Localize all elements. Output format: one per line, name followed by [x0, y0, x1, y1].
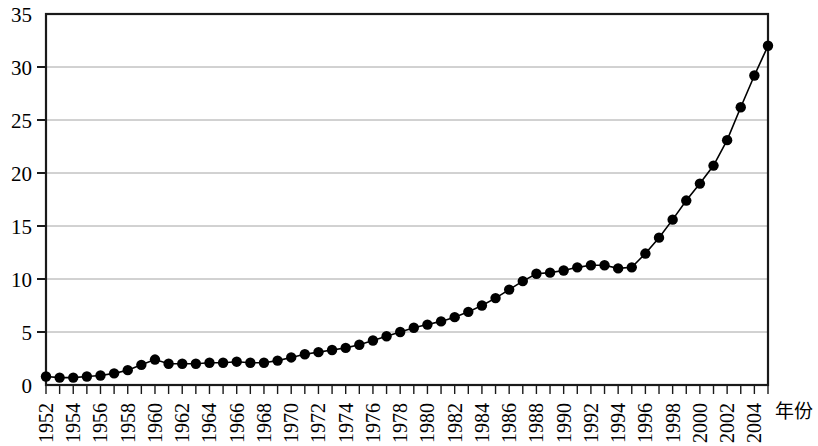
data-point [681, 195, 691, 205]
data-point [708, 160, 718, 170]
data-point [313, 347, 323, 357]
x-axis-tick-label: 1976 [362, 403, 384, 443]
data-point [82, 371, 92, 381]
x-axis-tick-label: 1960 [144, 403, 166, 443]
x-axis-tick-label: 1996 [634, 403, 656, 443]
data-point [191, 359, 201, 369]
data-point [368, 335, 378, 345]
x-axis-tick-label: 1956 [89, 403, 111, 443]
data-point [409, 323, 419, 333]
data-point [259, 358, 269, 368]
data-point [627, 262, 637, 272]
x-axis-tick-label: 2000 [689, 403, 711, 443]
x-axis-title: 年份 [775, 401, 813, 422]
data-point [531, 269, 541, 279]
data-point [422, 319, 432, 329]
data-point [245, 358, 255, 368]
data-point [204, 358, 214, 368]
data-point [286, 352, 296, 362]
data-point [572, 262, 582, 272]
x-axis-tick-label: 1990 [553, 403, 575, 443]
y-axis-tick-label: 5 [22, 321, 33, 345]
data-point [436, 316, 446, 326]
data-point [218, 358, 228, 368]
data-point [177, 359, 187, 369]
data-point [136, 360, 146, 370]
data-point [123, 365, 133, 375]
data-point [41, 371, 51, 381]
data-point [54, 372, 64, 382]
data-point [599, 260, 609, 270]
data-point [68, 372, 78, 382]
line-chart: 05101520253035 1952195419561958196019621… [0, 0, 818, 446]
data-point [722, 135, 732, 145]
data-point [381, 331, 391, 341]
data-point [95, 370, 105, 380]
data-point [763, 41, 773, 51]
y-axis-tick-label: 25 [11, 109, 32, 133]
x-axis-tick-label: 1972 [307, 403, 329, 443]
x-axis-tick-label: 1982 [444, 403, 466, 443]
data-point [749, 70, 759, 80]
y-axis-tick-label: 30 [11, 56, 32, 80]
x-axis-tick-label: 1952 [35, 403, 57, 443]
x-axis-tick-label: 2002 [716, 403, 738, 443]
y-axis-tick-label: 15 [11, 215, 32, 239]
y-axis-tick-label: 35 [11, 3, 32, 27]
x-axis-ticks-group [46, 385, 768, 394]
x-axis-tick-label: 1966 [226, 403, 248, 443]
data-point [736, 102, 746, 112]
data-point [395, 327, 405, 337]
x-axis-tick-label: 1968 [253, 403, 275, 443]
data-point [163, 359, 173, 369]
data-point [695, 178, 705, 188]
gridlines-group [46, 67, 768, 332]
x-axis-tick-label: 2004 [743, 403, 765, 443]
data-point [667, 214, 677, 224]
data-point [558, 265, 568, 275]
data-point [586, 260, 596, 270]
data-point-markers-group [41, 41, 773, 383]
data-point [463, 307, 473, 317]
x-axis-tick-label: 1970 [280, 403, 302, 443]
data-point [300, 349, 310, 359]
data-point [518, 276, 528, 286]
x-axis-tick-label: 1958 [117, 403, 139, 443]
x-axis-tick-label: 1992 [580, 403, 602, 443]
data-point [654, 232, 664, 242]
x-axis-tick-label: 1964 [198, 403, 220, 443]
y-axis-ticks-group [37, 67, 46, 332]
x-axis-tick-label: 1994 [607, 403, 629, 443]
data-point [354, 340, 364, 350]
x-axis-tick-label: 1988 [525, 403, 547, 443]
data-point [232, 356, 242, 366]
data-point [504, 284, 514, 294]
y-axis-tick-label: 10 [11, 268, 32, 292]
data-point [490, 293, 500, 303]
data-series-line [46, 46, 768, 378]
x-axis-tick-label: 1980 [416, 403, 438, 443]
x-axis-tick-label: 1974 [335, 403, 357, 443]
x-axis-tick-label: 1978 [389, 403, 411, 443]
data-point [449, 312, 459, 322]
data-point [613, 263, 623, 273]
x-axis-tick-label: 1984 [471, 403, 493, 443]
x-axis-tick-label: 1986 [498, 403, 520, 443]
y-axis-tick-label: 0 [22, 374, 33, 398]
data-point [341, 343, 351, 353]
data-point [272, 355, 282, 365]
data-point [640, 248, 650, 258]
y-axis-tick-labels-group: 05101520253035 [11, 3, 32, 398]
data-point [327, 345, 337, 355]
x-axis-tick-label: 1998 [662, 403, 684, 443]
x-axis-tick-label: 1954 [62, 403, 84, 443]
data-point [150, 354, 160, 364]
data-point [109, 368, 119, 378]
data-point [545, 267, 555, 277]
data-point [477, 300, 487, 310]
chart-container: 05101520253035 1952195419561958196019621… [0, 0, 818, 446]
y-axis-tick-label: 20 [11, 162, 32, 186]
x-axis-tick-labels-group: 1952195419561958196019621964196619681970… [35, 403, 765, 443]
x-axis-tick-label: 1962 [171, 403, 193, 443]
